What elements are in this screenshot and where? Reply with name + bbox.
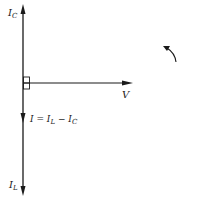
phasor-diagram: IC IL V I = IL − IC xyxy=(0,0,205,201)
label-resultant-current: I = IL − IC xyxy=(29,114,78,126)
resultant-arrowhead-icon xyxy=(21,113,26,123)
rotation-arrowhead-icon xyxy=(163,46,170,51)
rotation-arc-icon xyxy=(167,48,176,62)
label-v: V xyxy=(122,89,131,100)
label-il: IL xyxy=(8,179,18,192)
voltage-arrowhead-icon xyxy=(122,81,133,86)
ic-arrowhead-icon xyxy=(21,4,26,14)
il-arrowhead-icon xyxy=(21,186,26,196)
label-ic: IC xyxy=(7,7,18,20)
